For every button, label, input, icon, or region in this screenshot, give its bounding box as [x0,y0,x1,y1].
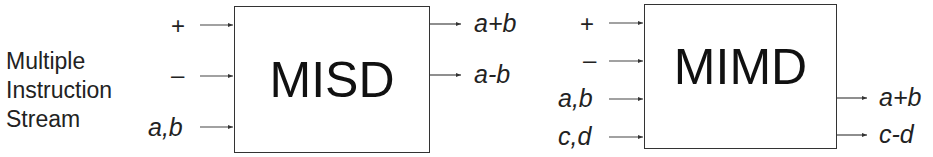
misd-output-sum: a+b [474,11,516,36]
mimd-box: MIMD [644,4,837,149]
mimd-output-sum: a+b [879,85,921,110]
mimd-input-ab: a,b [558,86,593,111]
misd-title: MISD [235,7,429,152]
misd-input-plus: + [171,14,185,38]
misd-input-minus: – [171,63,184,87]
mimd-input-plus: + [580,12,594,36]
misd-output-diff: a-b [474,62,510,87]
mimd-input-cd: c,d [558,124,591,149]
mimd-input-minus: – [583,48,596,72]
misd-input-ab: a,b [148,115,183,140]
mimd-output-diff: c-d [879,122,914,147]
mimd-title: MIMD [645,5,836,148]
misd-box: MISD [234,6,430,153]
